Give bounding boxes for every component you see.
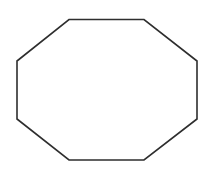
diagram-canvas [0, 0, 211, 179]
background [0, 0, 211, 179]
